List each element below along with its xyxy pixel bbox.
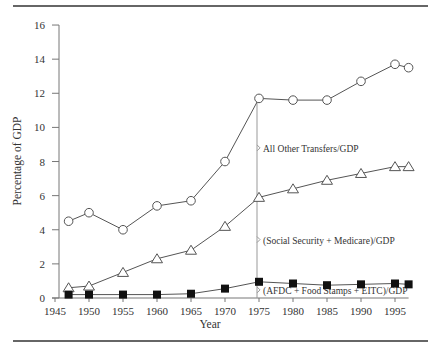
x-axis-label: Year xyxy=(199,318,220,330)
x-tick-label: 1995 xyxy=(384,305,407,317)
x-tick-label: 1970 xyxy=(214,305,237,317)
y-tick-label: 2 xyxy=(40,258,46,270)
chart: 0246810121416194519501955196019651970197… xyxy=(0,0,432,349)
x-tick-label: 1985 xyxy=(316,305,339,317)
axes: 0246810121416194519501955196019651970197… xyxy=(34,19,409,317)
data-point xyxy=(187,196,196,205)
x-tick-label: 1965 xyxy=(180,305,203,317)
y-tick-label: 14 xyxy=(34,53,46,65)
x-tick-label: 1960 xyxy=(146,305,169,317)
annotation-label: All Other Transfers/GDP xyxy=(263,144,359,154)
data-point xyxy=(221,285,229,293)
x-tick-label: 1955 xyxy=(112,305,135,317)
data-point xyxy=(289,96,298,105)
data-point xyxy=(221,157,230,166)
series-triangle-open xyxy=(63,162,414,292)
y-tick-label: 12 xyxy=(34,87,45,99)
x-tick-label: 1975 xyxy=(248,305,271,317)
data-point xyxy=(357,280,365,288)
data-point xyxy=(85,291,93,299)
annotation-label: (AFDC + Food Stamps + EITC)/GDP xyxy=(263,286,408,297)
data-point xyxy=(119,291,127,299)
data-point xyxy=(187,290,195,298)
data-point xyxy=(255,278,263,286)
annotation-brackets: All Other Transfers/GDP(Social Security … xyxy=(257,98,408,298)
y-tick-label: 0 xyxy=(40,292,46,304)
data-point xyxy=(405,280,413,288)
data-point xyxy=(404,63,413,72)
data-point xyxy=(289,279,297,287)
data-point xyxy=(64,217,73,226)
x-tick-label: 1980 xyxy=(282,305,305,317)
x-tick-label: 1990 xyxy=(350,305,373,317)
data-point xyxy=(323,281,331,289)
y-tick-label: 4 xyxy=(40,224,46,236)
data-point xyxy=(357,77,366,86)
x-tick-label: 1945 xyxy=(44,305,67,317)
data-point xyxy=(119,225,128,234)
data-point xyxy=(391,60,400,69)
data-point xyxy=(186,245,197,254)
y-tick-label: 10 xyxy=(34,121,46,133)
y-tick-label: 6 xyxy=(40,190,46,202)
data-point xyxy=(84,281,95,290)
data-point xyxy=(391,279,399,287)
data-point xyxy=(65,291,73,299)
y-tick-label: 16 xyxy=(34,19,46,31)
x-tick-label: 1950 xyxy=(78,305,101,317)
y-tick-label: 8 xyxy=(40,156,46,168)
data-point xyxy=(118,267,129,276)
data-point xyxy=(153,202,162,211)
data-point xyxy=(85,208,94,217)
series-circle-open xyxy=(64,60,413,234)
annotation-label: (Social Security + Medicare)/GDP xyxy=(263,236,395,247)
data-point xyxy=(153,291,161,299)
data-point xyxy=(255,94,264,103)
data-point xyxy=(323,96,332,105)
y-axis-label: Percentage of GDP xyxy=(11,117,24,206)
data-series xyxy=(63,60,414,299)
